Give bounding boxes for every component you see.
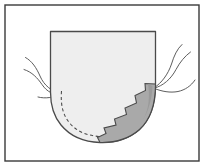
diagram-canvas [0, 0, 205, 167]
figure-container [0, 0, 205, 167]
fiber-group-right [155, 45, 196, 93]
